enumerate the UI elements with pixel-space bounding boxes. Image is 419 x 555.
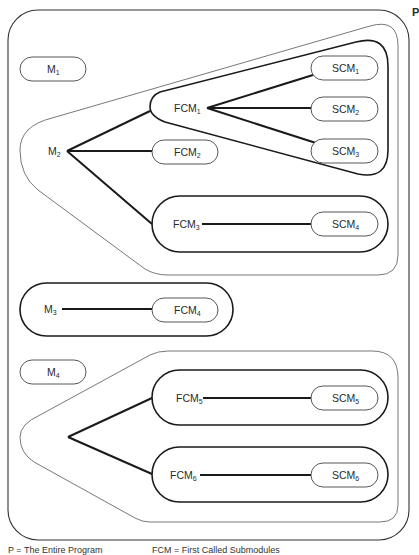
node-scm3-label: SCM3: [332, 145, 359, 158]
node-m3-label: M3: [44, 303, 57, 316]
node-fcm6-label: FCM6: [170, 469, 197, 482]
node-scm6-label: SCM6: [332, 469, 359, 482]
node-fcm1-label: FCM1: [174, 102, 201, 115]
edge-m4-fcm5: [68, 398, 152, 437]
node-fcm4-label: FCM4: [174, 304, 201, 317]
node-scm1-label: SCM1: [332, 62, 359, 75]
edge-fcm1-scm1: [207, 75, 313, 108]
node-fcm3-label: FCM3: [173, 218, 200, 231]
edge-m2-fcm3: [67, 151, 152, 224]
edge-m2-fcm1: [67, 111, 150, 151]
node-fcm2-label: FCM2: [174, 146, 201, 159]
node-fcm5-label: FCM5: [176, 392, 203, 405]
node-scm4-label: SCM4: [332, 218, 359, 231]
node-m2-label: M2: [48, 145, 61, 158]
node-scm2-label: SCM2: [332, 103, 359, 116]
edge-m4-fcm6: [68, 437, 152, 474]
legend-program: P = The Entire Program: [8, 545, 102, 555]
legend-fcm: FCM = First Called Submodules: [152, 545, 280, 555]
program-label: P: [412, 6, 419, 18]
node-scm5-label: SCM5: [332, 392, 359, 405]
